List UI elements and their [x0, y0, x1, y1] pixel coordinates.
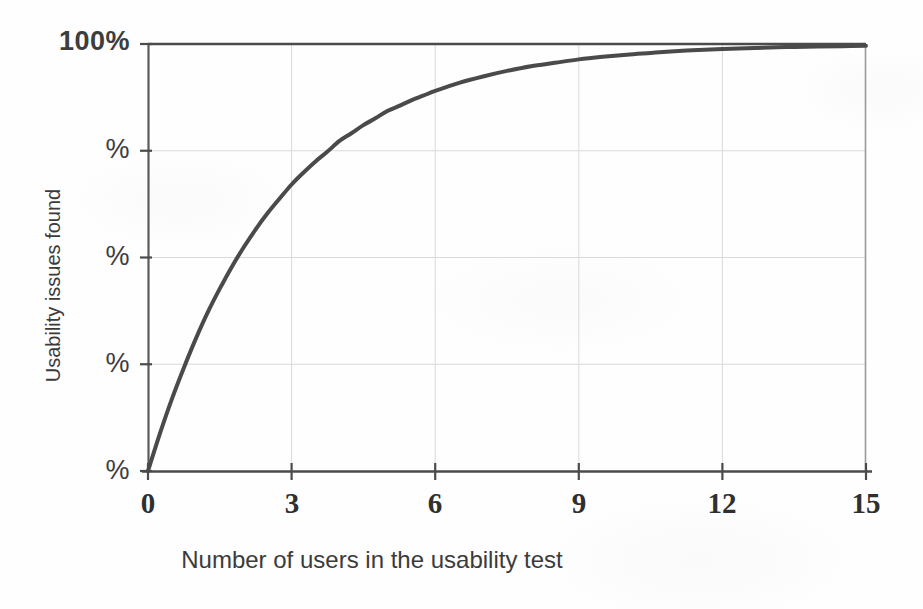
xtick-label-15: 15 [836, 487, 896, 520]
xtick-label-3: 3 [262, 487, 322, 520]
x-axis-title: Number of users in the usability test [92, 546, 652, 574]
xtick-label-6: 6 [405, 487, 465, 520]
y-axis-title: Usability issues found [42, 171, 65, 401]
ytick-label-50: % [8, 241, 130, 272]
horizontal-gridlines [148, 151, 866, 365]
usability-curve-figure: 100% % % % % 0 3 6 9 12 15 Number of use… [0, 0, 923, 609]
ytick-label-75: % [8, 134, 130, 165]
usability-issues-curve [148, 46, 866, 471]
xtick-label-12: 12 [692, 487, 752, 520]
y-axis-ticks [140, 44, 152, 471]
ytick-label-100: 100% [8, 26, 130, 57]
xtick-label-0: 0 [118, 487, 178, 520]
xtick-label-9: 9 [549, 487, 609, 520]
ytick-label-0: % [8, 455, 130, 486]
ytick-label-25: % [8, 348, 130, 379]
